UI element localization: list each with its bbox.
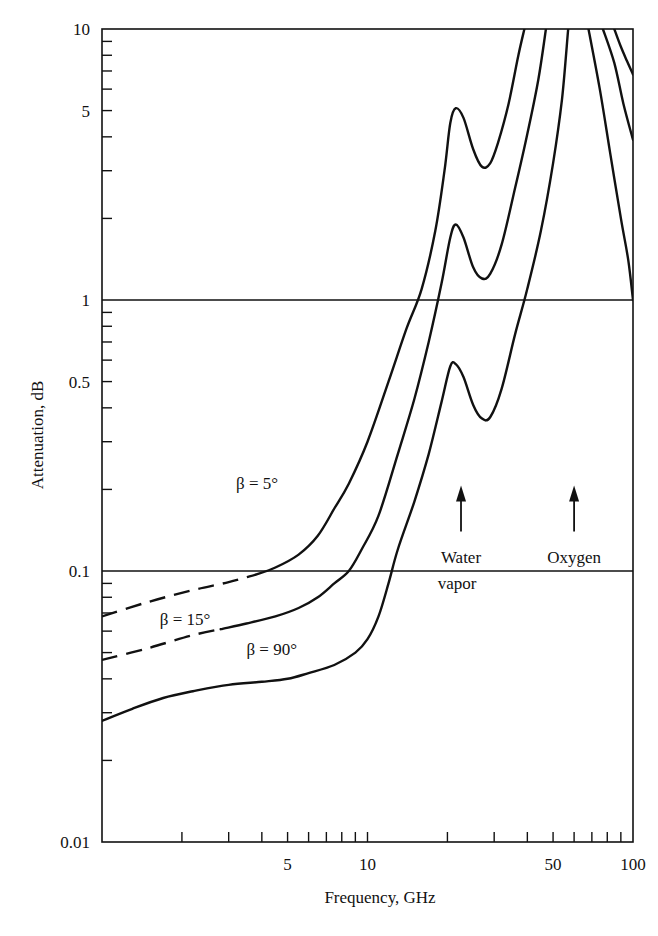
series-label-beta-15: β = 15° — [160, 610, 211, 629]
axis-ticks — [102, 41, 621, 842]
annotation-label: Oxygen — [547, 548, 601, 567]
grid-lines — [102, 300, 633, 571]
series-label-beta-90: β = 90° — [246, 640, 297, 659]
plot-frame — [102, 29, 633, 842]
arrow-head-icon — [456, 485, 466, 501]
y-axis-label: Attenuation, dB — [28, 381, 47, 490]
curve-beta-5 — [256, 29, 525, 575]
annotation-label-2: vapor — [438, 574, 477, 593]
y-tick-label: 0.5 — [69, 373, 90, 392]
tick-labels: 5105010010510.50.10.01 — [60, 20, 646, 874]
y-tick-label: 1 — [82, 291, 91, 310]
y-tick-label: 5 — [82, 102, 91, 121]
arrow-head-icon — [569, 485, 579, 501]
curve-beta-15 — [221, 29, 546, 629]
x-tick-label: 100 — [620, 855, 646, 874]
annotations: β = 5°β = 15°β = 90°WatervaporOxygen — [160, 474, 602, 659]
x-tick-label: 10 — [359, 855, 376, 874]
x-tick-label: 50 — [545, 855, 562, 874]
x-axis-label: Frequency, GHz — [324, 888, 436, 907]
x-tick-label: 5 — [283, 855, 292, 874]
y-tick-label: 0.1 — [69, 562, 90, 581]
annotation-label: Water — [441, 548, 481, 567]
curve-beta-90-oxygen — [589, 29, 634, 300]
y-tick-label: 0.01 — [60, 833, 90, 852]
attenuation-chart: 5105010010510.50.10.01 β = 5°β = 15°β = … — [0, 0, 658, 936]
y-tick-label: 10 — [73, 20, 90, 39]
curve-beta-15-dashed — [102, 629, 221, 660]
curve-beta-15-oxygen — [603, 29, 633, 140]
series-label-beta-5: β = 5° — [236, 474, 278, 493]
curve-beta-5-oxygen — [614, 29, 633, 74]
